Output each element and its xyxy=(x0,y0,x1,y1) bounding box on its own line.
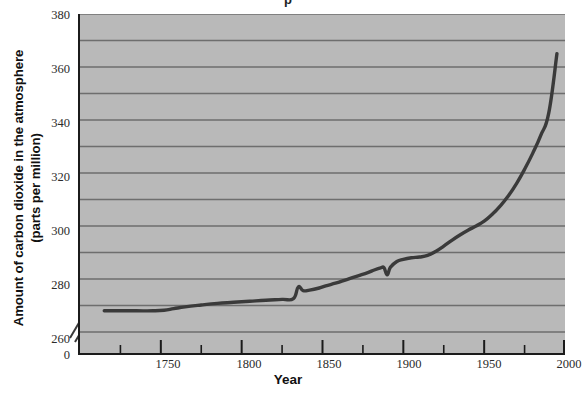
y-axis-title-line1: Amount of carbon dioxide in the atmosphe… xyxy=(10,18,27,358)
y-axis-tick-label: 360 xyxy=(36,62,70,77)
y-axis-tick-label: 300 xyxy=(36,224,70,239)
y-axis-tick-label: 260 xyxy=(36,332,70,347)
data-line-atmospheric-co2 xyxy=(104,54,557,311)
x-axis-tick-label: 1750 xyxy=(138,357,198,372)
y-axis-tick-label: 340 xyxy=(36,116,70,131)
y-axis-tick-label: 280 xyxy=(36,278,70,293)
x-axis-tick-label: 1800 xyxy=(219,357,279,372)
x-axis-title: Year xyxy=(0,372,576,387)
x-axis-tick-label: 1950 xyxy=(459,357,519,372)
x-axis-tick-label: 1850 xyxy=(299,357,359,372)
cropped-title-fragment: p xyxy=(0,0,576,9)
gridlines xyxy=(80,14,565,332)
y-axis-tick-label: 0 xyxy=(36,348,70,363)
plot-svg xyxy=(80,14,565,353)
y-axis-tick-label: 380 xyxy=(36,8,70,23)
plot-area xyxy=(78,14,565,355)
data-series-group xyxy=(104,54,557,311)
y-axis-tick-label: 320 xyxy=(36,170,70,185)
x-axis-tick-label: 1900 xyxy=(379,357,439,372)
x-axis-tick-label: 2000 xyxy=(539,357,586,372)
